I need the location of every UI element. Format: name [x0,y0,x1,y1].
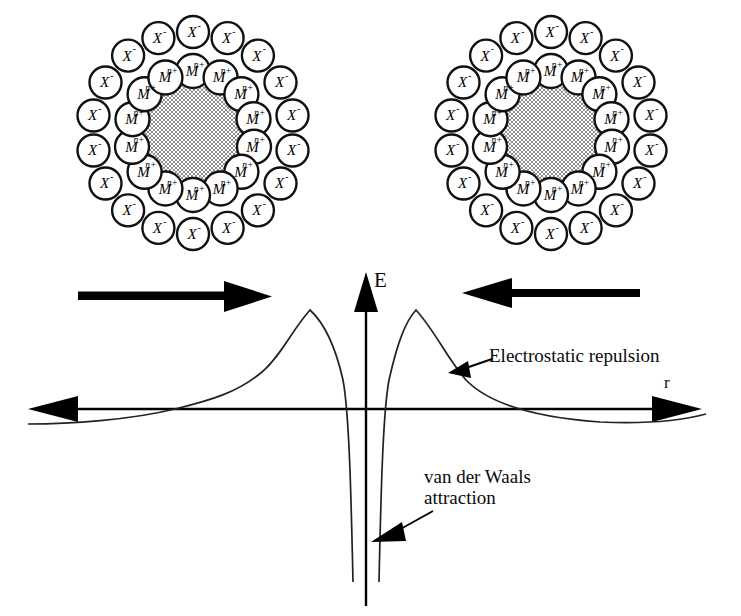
left-anion-14-symbol: X [87,107,98,123]
right-colloid-particle [436,16,667,250]
right-anion-14-charge: - [456,104,459,114]
left-anion-17-symbol: X [152,30,163,46]
left-anion-9-symbol: X [186,226,197,242]
right-cation-2-charge: n+ [600,83,611,93]
left-cation-7-charge: n+ [194,184,205,194]
left-anion-2-symbol: X [251,48,262,64]
right-anion-12-charge: - [468,172,471,182]
left-anion-10-charge: - [163,217,166,227]
right-cation-9-charge: n+ [503,160,514,170]
left-anion-0-symbol: X [186,24,197,40]
left-anion-14-charge: - [98,104,101,114]
vdw-line-1: van der Waals [424,466,531,487]
right-anion-10-charge: - [521,217,524,227]
right-cation-12-charge: n+ [503,83,514,93]
right-anion-0-charge: - [556,21,559,31]
right-cation-1-charge: n+ [579,66,590,76]
left-cation-6-charge: n+ [221,178,232,188]
right-cation-7-charge: n+ [552,184,563,194]
right-anion-10-symbol: X [510,220,521,236]
left-cation-12-charge: n+ [145,83,156,93]
left-cation-10-charge: n+ [133,135,144,145]
right-anion-6-symbol: X [632,175,643,191]
y-axis-label: E [374,269,387,293]
figure-canvas: Mn+Mn+Mn+Mn+Mn+Mn+Mn+Mn+Mn+Mn+Mn+Mn+Mn+M… [0,0,741,616]
right-anion-1-symbol: X [579,30,590,46]
left-anion-3-symbol: X [274,74,285,90]
right-anion-8-charge: - [590,217,593,227]
right-anion-16-charge: - [491,44,494,54]
right-cation-0-charge: n+ [552,60,563,70]
right-anion-3-symbol: X [632,74,643,90]
left-anion-4-symbol: X [286,107,297,123]
right-anion-1-charge: - [590,27,593,37]
right-cation-6-charge: n+ [579,178,590,188]
right-anion-17-symbol: X [510,30,521,46]
left-anion-7-charge: - [263,199,266,209]
right-anion-0-symbol: X [544,24,555,40]
right-cation-8-charge: n+ [525,178,536,188]
right-anion-15-symbol: X [457,74,468,90]
left-cation-8-charge: n+ [167,178,178,188]
right-anion-7-charge: - [621,199,624,209]
right-cation-3-charge: n+ [612,108,623,118]
left-anion-12-charge: - [110,172,113,182]
interaction-energy-axis [354,272,378,606]
approach-arrow-left [462,278,640,308]
electrostatic-repulsion-leader [448,359,492,378]
right-anion-13-symbol: X [445,142,456,158]
x-axis-label: r [664,373,670,392]
approach-arrow-right [78,281,272,312]
right-anion-9-symbol: X [544,226,555,242]
right-anion-4-symbol: X [644,107,655,123]
right-anion-17-charge: - [521,27,524,37]
left-anion-4-charge: - [297,104,300,114]
right-anion-3-charge: - [643,71,646,81]
left-cation-13-charge: n+ [167,66,178,76]
left-anion-15-charge: - [110,71,113,81]
right-anion-11-symbol: X [479,202,490,218]
left-anion-7-symbol: X [251,202,262,218]
right-cation-10-charge: n+ [491,135,502,145]
right-anion-2-charge: - [621,44,624,54]
right-cation-11-charge: n+ [491,108,502,118]
left-cation-3-charge: n+ [254,108,265,118]
left-anion-11-symbol: X [121,202,132,218]
right-anion-15-charge: - [468,71,471,81]
right-anion-5-charge: - [655,139,658,149]
left-anion-12-symbol: X [99,175,110,191]
right-anion-8-symbol: X [579,220,590,236]
right-cation-13-charge: n+ [525,66,536,76]
right-cation-4-charge: n+ [612,135,623,145]
right-anion-13-charge: - [456,139,459,149]
electrostatic-repulsion-label: Electrostatic repulsion [489,345,659,366]
right-anion-2-symbol: X [609,48,620,64]
left-cation-4-charge: n+ [254,135,265,145]
right-anion-14-symbol: X [445,107,456,123]
left-anion-10-symbol: X [152,220,163,236]
left-cation-1-charge: n+ [221,66,232,76]
right-anion-12-symbol: X [457,175,468,191]
left-anion-1-symbol: X [221,30,232,46]
left-anion-5-symbol: X [286,142,297,158]
left-anion-13-charge: - [98,139,101,149]
left-cation-9-charge: n+ [145,160,156,170]
left-anion-9-charge: - [198,223,201,233]
left-anion-15-symbol: X [99,74,110,90]
right-anion-7-symbol: X [609,202,620,218]
left-anion-17-charge: - [163,27,166,37]
right-anion-6-charge: - [643,172,646,182]
left-cation-2-charge: n+ [242,83,253,93]
left-cation-11-charge: n+ [133,108,144,118]
left-cation-0-charge: n+ [194,60,205,70]
left-anion-3-charge: - [285,71,288,81]
left-anion-6-charge: - [285,172,288,182]
right-anion-11-charge: - [491,199,494,209]
right-anion-16-symbol: X [479,48,490,64]
left-anion-8-symbol: X [221,220,232,236]
left-anion-2-charge: - [263,44,266,54]
left-anion-5-charge: - [297,139,300,149]
right-anion-9-charge: - [556,223,559,233]
left-anion-8-charge: - [232,217,235,227]
dlvo-diagram: Mn+Mn+Mn+Mn+Mn+Mn+Mn+Mn+Mn+Mn+Mn+Mn+Mn+M… [0,0,741,616]
